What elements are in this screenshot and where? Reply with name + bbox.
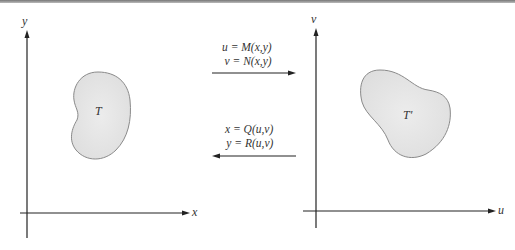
inverse-arrow	[212, 154, 296, 159]
inverse-map-equations: x = Q(u,v) y = R(u,v)	[225, 122, 273, 150]
y-axis-label: y	[22, 14, 27, 29]
forward-map-equations: u = M(x,y) v = N(x,y)	[222, 40, 272, 68]
region-t-label: T	[95, 104, 102, 119]
forward-arrow	[212, 71, 296, 76]
v-axis-label: v	[311, 12, 316, 27]
forward-eq-v: v = N(x,y)	[222, 54, 272, 68]
forward-eq-u: u = M(x,y)	[222, 40, 272, 54]
x-axis-label: x	[192, 205, 197, 220]
u-axis-label: u	[498, 203, 504, 218]
inverse-eq-y: y = R(u,v)	[225, 136, 273, 150]
region-t-prime-label: T′	[403, 108, 412, 123]
inverse-eq-x: x = Q(u,v)	[225, 122, 273, 136]
